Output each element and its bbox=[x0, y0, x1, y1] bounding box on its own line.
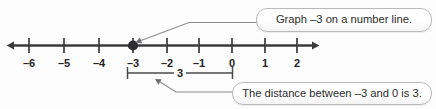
tick-label-neg-3: –3 bbox=[127, 57, 139, 69]
tick-label-neg-1: –1 bbox=[193, 57, 205, 69]
plotted-point-negative-three bbox=[128, 40, 138, 50]
tick-label-neg-2: –2 bbox=[161, 57, 173, 69]
callout-graph-text: Graph –3 on a number line. bbox=[276, 14, 412, 25]
tick-label-one: 1 bbox=[262, 57, 268, 69]
tick-label-zero: 0 bbox=[229, 57, 235, 69]
tick-label-neg-4: –4 bbox=[93, 57, 105, 69]
tick-label-two: 2 bbox=[294, 57, 300, 69]
number-line-figure: –6 –5 –4 –3 –2 –1 0 1 2 3 Graph –3 on a … bbox=[0, 0, 436, 109]
leader-line-distance-callout bbox=[160, 82, 234, 92]
distance-bracket-label: 3 bbox=[174, 67, 186, 79]
tick-label-neg-5: –5 bbox=[58, 57, 70, 69]
callout-distance-text: The distance between –3 and 0 is 3. bbox=[242, 88, 422, 99]
callout-graph-instruction: Graph –3 on a number line. bbox=[256, 8, 432, 32]
leader-line-graph-callout bbox=[141, 23, 258, 41]
tick-label-neg-6: –6 bbox=[23, 57, 35, 69]
callout-distance-explanation: The distance between –3 and 0 is 3. bbox=[232, 82, 432, 105]
